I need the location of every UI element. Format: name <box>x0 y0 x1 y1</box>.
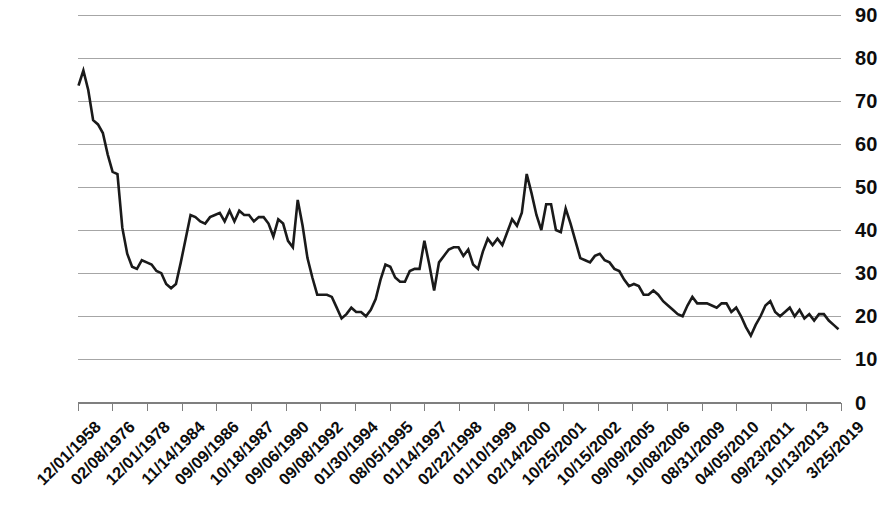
y-axis-tick-label: 60 <box>855 134 878 154</box>
y-axis-tick-label: 40 <box>855 220 878 240</box>
gridlines <box>78 16 841 360</box>
y-axis-tick-label: 80 <box>855 48 878 68</box>
data-series-line <box>79 71 839 336</box>
x-axis <box>78 403 842 411</box>
y-axis-tick-label: 20 <box>855 306 878 326</box>
y-axis-tick-label: 10 <box>855 349 878 369</box>
line-chart: 0102030405060708090 12/01/195802/08/1976… <box>0 0 895 524</box>
y-axis-tick-label: 30 <box>855 263 878 283</box>
y-axis-tick-label: 50 <box>855 177 878 197</box>
y-axis-tick-label: 70 <box>855 91 878 111</box>
y-axis-tick-label: 90 <box>855 5 878 25</box>
y-axis-tick-label: 0 <box>855 393 866 413</box>
